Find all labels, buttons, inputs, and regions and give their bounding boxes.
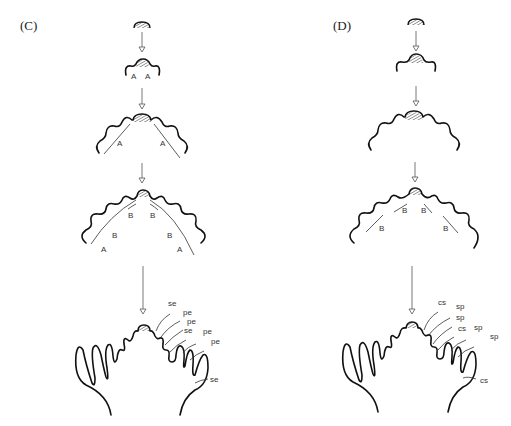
c-stage4: B B B B A A [82, 190, 205, 255]
d-stage5: cs sp sp cs sp sp cs [343, 298, 499, 412]
d-stage3 [369, 111, 460, 150]
label-b: B [421, 206, 426, 215]
panel-d: B B B B cs sp sp cs s [343, 19, 499, 412]
arrow-icon [413, 31, 419, 51]
label-a: A [145, 72, 151, 81]
label-cs: cs [438, 298, 446, 307]
label-b: B [150, 211, 155, 220]
label-b: B [379, 224, 384, 233]
label-a: A [160, 139, 166, 148]
label-pe: pe [211, 337, 220, 346]
label-pe: pe [203, 327, 212, 336]
label-sp: sp [456, 313, 465, 322]
arrow-icon [140, 266, 146, 314]
d-stage1-meristem [408, 19, 424, 25]
label-sp: sp [456, 302, 465, 311]
developmental-diagram: A A A A B B B [0, 0, 511, 426]
arrow-icon [139, 163, 145, 183]
c-stage2: A A [126, 59, 160, 81]
label-sp: sp [490, 332, 499, 341]
label-pe: pe [183, 308, 192, 317]
label-a: A [177, 245, 183, 254]
label-cs: cs [480, 376, 488, 385]
label-a: A [131, 72, 137, 81]
c-stage5: se pe pe se pe pe se [76, 299, 221, 415]
label-a: A [101, 245, 107, 254]
label-se: se [184, 326, 193, 335]
arrow-icon [139, 32, 145, 52]
label-b: B [128, 211, 133, 220]
label-pe: pe [187, 317, 196, 326]
panel-c: A A A A B B B [76, 22, 221, 415]
c-stage3: A A [97, 114, 188, 158]
c-stage1-meristem [134, 22, 150, 28]
arrow-icon [412, 162, 418, 182]
d-stage2 [397, 54, 436, 71]
label-b: B [443, 224, 448, 233]
label-cs: cs [458, 324, 466, 333]
label-sp: sp [474, 323, 483, 332]
label-b: B [112, 231, 117, 240]
label-se: se [210, 375, 219, 384]
d-stage4: B B B B [350, 188, 478, 248]
label-b: B [167, 231, 172, 240]
arrow-icon [413, 86, 419, 106]
label-b: B [402, 206, 407, 215]
arrow-icon [409, 266, 415, 314]
label-se: se [168, 299, 177, 308]
arrow-icon [139, 88, 145, 109]
label-a: A [117, 139, 123, 148]
